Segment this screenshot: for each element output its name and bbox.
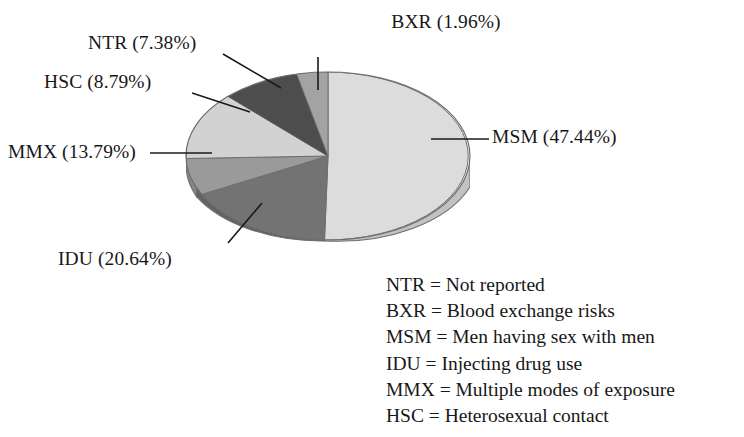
legend: NTR = Not reported BXR = Blood exchange … [386,272,736,429]
callout-label-idu: IDU (20.64%) [58,249,172,269]
callout-label-bxr: BXR (1.96%) [391,12,500,32]
pie-slice-msm [325,72,469,240]
pie-top-face [186,72,468,240]
legend-row-msm: MSM = Men having sex with men [386,324,736,350]
callout-label-hsc: HSC (8.79%) [44,72,151,92]
callout-label-msm: MSM (47.44%) [492,127,617,147]
legend-row-bxr: BXR = Blood exchange risks [386,298,736,324]
legend-row-hsc: HSC = Heterosexual contact [386,403,736,429]
callout-label-ntr: NTR (7.38%) [88,33,196,53]
pie-chart-figure: NTR (7.38%) BXR (1.96%) HSC (8.79%) MMX … [0,0,744,437]
legend-row-ntr: NTR = Not reported [386,272,736,298]
callout-label-mmx: MMX (13.79%) [8,142,136,162]
legend-row-idu: IDU = Injecting drug use [386,351,736,377]
leader-line-ntr [223,54,281,88]
legend-row-mmx: MMX = Multiple modes of exposure [386,377,736,403]
